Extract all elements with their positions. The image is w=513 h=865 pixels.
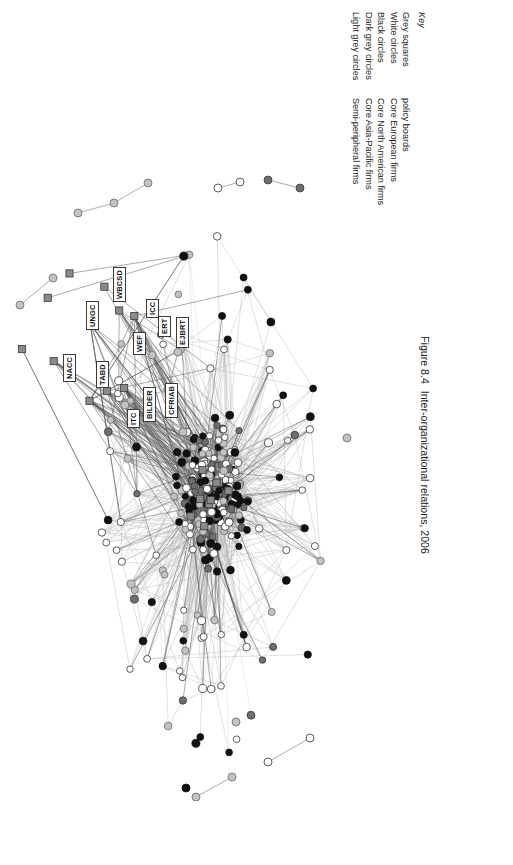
graph-node — [270, 643, 277, 650]
graph-node — [49, 274, 57, 282]
graph-node — [208, 466, 215, 473]
graph-node — [240, 274, 247, 281]
legend-meaning-label: Core Asia-Pacific firms — [362, 98, 374, 242]
graph-node — [267, 318, 275, 326]
figure-caption-text: Inter-organizational relations, 2006 — [419, 391, 431, 554]
graph-node — [197, 617, 205, 625]
legend-meaning-label: Semi-peripheral firms — [350, 98, 362, 242]
figure-caption: Figure 8.4Inter-organizational relations… — [405, 285, 431, 605]
graph-node — [164, 722, 172, 730]
graph-node — [205, 565, 212, 572]
graph-node — [159, 663, 166, 670]
graph-policy-board-node — [199, 467, 206, 474]
graph-node — [175, 291, 182, 298]
legend-title: Key — [417, 12, 427, 242]
graph-node — [220, 426, 227, 433]
legend-row: White circlesCore European firms — [387, 12, 399, 242]
graph-node — [179, 697, 186, 704]
graph-policy-board-node — [66, 270, 73, 277]
graph-node — [200, 511, 207, 518]
network-graph-svg — [0, 140, 400, 840]
graph-node — [189, 546, 196, 553]
graph-node — [174, 448, 181, 455]
graph-node — [200, 546, 207, 553]
graph-node-label: EJBRT — [176, 317, 189, 348]
graph-node — [144, 655, 151, 662]
graph-node — [207, 540, 215, 548]
graph-node — [211, 616, 219, 624]
graph-node — [179, 674, 185, 680]
graph-node — [183, 450, 191, 458]
graph-policy-board-node — [86, 397, 93, 404]
graph-node — [266, 350, 273, 357]
graph-policy-board-node — [116, 307, 123, 314]
graph-node — [121, 401, 129, 409]
graph-node — [215, 437, 222, 444]
graph-node-label: NACC — [63, 354, 76, 382]
legend-meaning-label: Core North American firms — [375, 98, 387, 242]
graph-node — [183, 484, 191, 492]
graph-node — [220, 467, 228, 475]
graph-node — [283, 547, 290, 554]
graph-node — [220, 449, 227, 456]
graph-node — [236, 543, 242, 549]
graph-policy-board-node — [213, 479, 220, 486]
graph-node — [181, 607, 187, 613]
graph-policy-board-node — [50, 358, 57, 365]
graph-node — [103, 539, 110, 546]
graph-node — [306, 426, 314, 434]
graph-node — [222, 434, 229, 441]
graph-node — [306, 734, 314, 742]
graph-node — [235, 512, 242, 519]
graph-node-label: TABD — [96, 361, 109, 388]
graph-node — [210, 550, 218, 558]
graph-nodes — [18, 232, 324, 755]
graph-node-label: WBCSD — [113, 267, 126, 302]
graph-node — [284, 437, 290, 443]
graph-node — [16, 301, 24, 309]
graph-node — [113, 547, 120, 554]
graph-node — [343, 434, 351, 442]
graph-node — [291, 431, 299, 439]
graph-node — [118, 558, 125, 565]
graph-node — [236, 427, 242, 433]
graph-policy-board-node — [103, 388, 110, 395]
graph-node — [225, 518, 233, 526]
graph-node — [199, 684, 207, 692]
graph-node — [220, 509, 227, 516]
graph-node — [127, 666, 133, 672]
graph-node — [220, 498, 227, 505]
graph-node — [221, 346, 228, 353]
graph-node — [149, 351, 157, 359]
graph-node-label: UNGC — [86, 301, 99, 330]
graph-node — [243, 643, 251, 651]
graph-node — [133, 443, 141, 451]
graph-node — [127, 580, 135, 588]
graph-node — [280, 392, 287, 399]
graph-node — [241, 505, 247, 511]
graph-node — [161, 571, 168, 578]
network-graph: NACCUNGCWBCSDTABDWEFICCERTEJBRTITCBILDER… — [0, 140, 400, 840]
legend-shape-label: Black circles — [375, 12, 387, 98]
graph-node — [219, 312, 226, 319]
graph-node — [234, 493, 242, 501]
graph-node — [208, 508, 216, 516]
graph-policy-board-node — [101, 283, 108, 290]
graph-node — [213, 232, 221, 240]
graph-node — [130, 595, 138, 603]
graph-node — [180, 252, 188, 260]
graph-node — [207, 685, 215, 693]
graph-policy-board-node — [201, 523, 208, 530]
graph-node — [176, 668, 183, 675]
legend-row: Black circlesCore North American firms — [375, 12, 387, 242]
graph-node — [259, 657, 265, 663]
graph-node — [115, 377, 123, 385]
graph-policy-board-node — [44, 294, 51, 301]
graph-node — [124, 455, 131, 462]
legend-shape-label: Light grey circles — [350, 12, 362, 98]
graph-node — [304, 651, 311, 658]
graph-node — [296, 184, 304, 192]
graph-node — [310, 385, 317, 392]
graph-node — [153, 552, 160, 559]
graph-node — [178, 510, 185, 517]
